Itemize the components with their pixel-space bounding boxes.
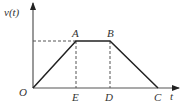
origin-label: O	[19, 86, 27, 98]
point-label-C: C	[154, 91, 162, 103]
point-label-E: E	[71, 91, 79, 103]
velocity-curve	[33, 41, 158, 88]
point-label-A: A	[71, 27, 79, 39]
point-label-D: D	[104, 91, 113, 103]
x-axis-label: t	[170, 90, 174, 102]
y-axis-label: v(t)	[4, 6, 20, 19]
point-label-B: B	[107, 27, 114, 39]
velocity-time-diagram: v(t) t O A B E D C	[0, 0, 187, 106]
